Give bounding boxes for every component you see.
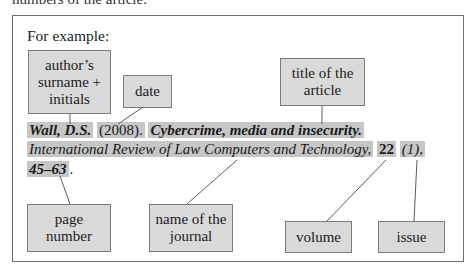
citation-line-1: Wall, D.S. (2008). Cybercrime, media and… (27, 122, 364, 139)
label-issue: issue (378, 221, 445, 253)
label-page-line1: page (46, 211, 92, 228)
label-author-line3: initials (38, 91, 101, 108)
citation-journal: International Review of Law Computers an… (27, 141, 373, 157)
label-page-number: page number (27, 204, 111, 252)
label-title-line2: article (292, 82, 354, 99)
citation-line-3: 45–63. (27, 161, 74, 178)
cutoff-preceding-text: numbers of the article. (12, 0, 147, 8)
citation-line-2: International Review of Law Computers an… (27, 141, 425, 158)
label-author-line1: author’s (38, 57, 101, 74)
label-journal-line1: name of the (156, 211, 227, 228)
citation-date: (2008). (97, 122, 145, 138)
example-heading: For example: (27, 27, 109, 45)
label-title-line1: title of the (292, 65, 354, 82)
label-author-line2: surname + (38, 74, 101, 91)
citation-pages: 45–63 (27, 161, 69, 177)
label-journal-name: name of the journal (149, 204, 233, 252)
label-title: title of the article (280, 58, 365, 106)
citation-volume: 22 (377, 141, 396, 157)
label-page-line2: number (46, 228, 92, 245)
label-author: author’s surname + initials (28, 50, 111, 114)
citation-issue: (1), (400, 141, 425, 157)
citation-end: . (69, 161, 75, 177)
label-date: date (123, 75, 172, 108)
label-journal-line2: journal (156, 228, 227, 245)
label-issue-line1: issue (397, 229, 427, 246)
label-date-line1: date (135, 83, 160, 100)
citation-author: Wall, D.S. (27, 122, 93, 138)
label-volume-line1: volume (296, 229, 341, 246)
citation-title: Cybercrime, media and insecurity. (148, 122, 364, 138)
label-volume: volume (285, 221, 352, 253)
